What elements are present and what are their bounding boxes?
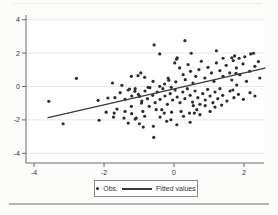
- data-point: [193, 111, 196, 114]
- data-point: [198, 103, 201, 106]
- data-point: [215, 61, 218, 64]
- data-point: [241, 62, 244, 65]
- data-point: [186, 87, 189, 90]
- data-point: [200, 60, 203, 63]
- data-point: [242, 98, 245, 101]
- data-point: [158, 115, 161, 118]
- data-point: [179, 110, 182, 113]
- y-tick-label: -4: [14, 150, 20, 157]
- scatter-chart: -4-2024-4-202 Obs. Fitted values: [0, 0, 278, 200]
- data-point: [111, 81, 114, 84]
- data-point: [113, 96, 116, 99]
- data-point: [231, 88, 234, 91]
- data-point: [188, 111, 191, 114]
- data-point: [235, 83, 238, 86]
- data-point: [235, 66, 238, 69]
- data-point: [152, 136, 155, 139]
- data-point: [135, 116, 138, 119]
- data-point: [143, 76, 146, 79]
- data-point: [123, 110, 126, 113]
- data-point: [98, 119, 101, 122]
- data-point: [233, 54, 236, 57]
- data-point: [190, 52, 193, 55]
- data-point: [139, 71, 142, 74]
- data-point: [97, 99, 100, 102]
- data-point: [210, 71, 213, 74]
- data-point: [158, 85, 161, 88]
- data-point: [257, 60, 260, 63]
- data-point: [182, 73, 185, 76]
- data-point: [204, 104, 207, 107]
- data-point: [130, 105, 133, 108]
- data-point: [206, 88, 209, 91]
- data-point: [198, 113, 201, 116]
- y-tick-label: 2: [16, 50, 20, 57]
- data-point: [155, 108, 158, 111]
- data-point: [186, 63, 189, 66]
- data-point: [165, 120, 168, 123]
- data-point: [183, 97, 186, 100]
- data-point: [183, 39, 186, 42]
- data-point: [209, 94, 212, 97]
- data-point: [170, 111, 173, 114]
- data-point: [146, 97, 149, 100]
- data-point: [138, 122, 141, 125]
- data-point: [161, 87, 164, 90]
- data-point: [163, 111, 166, 114]
- chart-legend: Obs. Fitted values: [94, 180, 198, 197]
- data-point: [176, 56, 179, 59]
- data-point: [253, 94, 256, 97]
- data-point: [143, 89, 146, 92]
- data-point: [143, 115, 146, 118]
- data-point: [153, 43, 156, 46]
- data-point: [115, 107, 118, 110]
- data-point: [166, 103, 169, 106]
- data-point: [211, 101, 214, 104]
- data-point: [201, 92, 204, 95]
- data-point: [238, 57, 241, 60]
- data-point: [216, 97, 219, 100]
- data-point: [232, 59, 235, 62]
- x-tick-label: 2: [242, 169, 246, 176]
- data-point: [62, 122, 65, 125]
- plot-area: [26, 15, 264, 163]
- data-point: [197, 68, 200, 71]
- x-tick-label: -2: [101, 169, 107, 176]
- data-point: [163, 94, 166, 97]
- data-point: [120, 84, 123, 87]
- plot-canvas: -4-2024-4-202: [0, 0, 278, 178]
- data-point: [167, 79, 170, 82]
- data-point: [75, 77, 78, 80]
- data-point: [176, 95, 179, 98]
- y-tick-label: 4: [16, 16, 20, 23]
- data-point: [243, 55, 246, 58]
- data-point: [237, 93, 240, 96]
- data-point: [174, 80, 177, 83]
- data-point: [140, 101, 143, 104]
- data-point: [173, 61, 176, 64]
- data-point: [152, 125, 155, 128]
- data-point: [175, 123, 178, 126]
- data-point: [189, 94, 192, 97]
- data-point: [189, 70, 192, 73]
- data-point: [148, 105, 151, 108]
- data-point: [249, 52, 252, 55]
- data-point: [213, 90, 216, 93]
- data-point: [169, 118, 172, 121]
- obs-marker-icon: [96, 187, 99, 190]
- data-point: [160, 108, 163, 111]
- data-point: [248, 91, 251, 94]
- data-point: [228, 71, 231, 74]
- data-point: [113, 111, 116, 114]
- data-point: [163, 82, 166, 85]
- fitted-line-sample-icon: [122, 188, 152, 190]
- data-point: [141, 110, 144, 113]
- data-point: [196, 96, 199, 99]
- data-point: [221, 94, 224, 97]
- data-point: [47, 100, 50, 103]
- data-point: [151, 80, 154, 83]
- data-point: [225, 64, 228, 67]
- data-point: [221, 57, 224, 60]
- data-point: [225, 99, 228, 102]
- data-point: [204, 98, 207, 101]
